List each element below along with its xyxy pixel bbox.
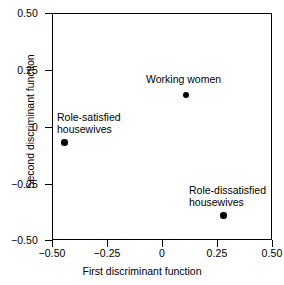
annotation-line-2: housewives bbox=[57, 124, 121, 136]
x-tick-mark-3 bbox=[217, 240, 218, 247]
annotation-line-1: Working women bbox=[146, 74, 221, 86]
annotation-role-dissatisfied-housewives: Role-dissatisfied housewives bbox=[189, 185, 266, 208]
x-tick-mark-1 bbox=[107, 240, 108, 247]
y-tick-label-4: −0.50 bbox=[0, 235, 38, 246]
scatter-plot-figure: 0.50 0.25 0 −0.25 −0.50 −0.50 −0.25 0 0.… bbox=[0, 0, 284, 285]
y-tick-mark-3 bbox=[45, 184, 52, 185]
data-point-role-dissatisfied-housewives bbox=[220, 212, 227, 219]
x-tick-mark-2 bbox=[162, 240, 163, 247]
x-tick-label-3: 0.25 bbox=[187, 248, 247, 259]
y-tick-mark-0 bbox=[45, 13, 52, 14]
annotation-line-1: Role-dissatisfied bbox=[189, 185, 266, 197]
y-tick-mark-2 bbox=[45, 127, 52, 128]
annotation-line-1: Role-satisfied bbox=[57, 112, 121, 124]
data-point-role-satisfied-housewives bbox=[61, 139, 68, 146]
y-tick-mark-4 bbox=[45, 240, 52, 241]
x-tick-label-4: 0.50 bbox=[242, 248, 284, 259]
x-tick-label-1: −0.25 bbox=[77, 248, 137, 259]
annotation-working-women: Working women bbox=[146, 74, 221, 86]
y-tick-label-0: 0.50 bbox=[0, 8, 38, 19]
x-tick-mark-0 bbox=[52, 240, 53, 247]
x-tick-label-0: −0.50 bbox=[22, 248, 82, 259]
annotation-line-2: housewives bbox=[189, 197, 266, 209]
x-tick-mark-4 bbox=[272, 240, 273, 247]
annotation-role-satisfied-housewives: Role-satisfied housewives bbox=[57, 112, 121, 135]
x-tick-label-2: 0 bbox=[132, 248, 192, 259]
y-axis-title: Second discriminant function bbox=[25, 32, 36, 212]
y-tick-mark-1 bbox=[45, 70, 52, 71]
x-axis-title: First discriminant function bbox=[0, 266, 284, 277]
